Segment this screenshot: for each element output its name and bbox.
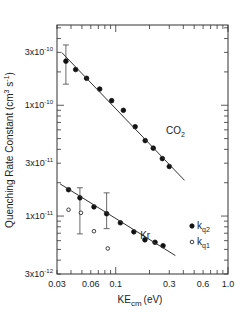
x-tick-label: 0.03 — [48, 279, 66, 289]
fit-line — [62, 52, 185, 180]
data-point-filled — [73, 67, 78, 72]
y-tick-label: 3x10-10 — [25, 46, 54, 57]
legend-marker — [190, 240, 194, 244]
y-tick-label: 1x10-10 — [25, 99, 54, 110]
x-tick-label: 0.06 — [82, 279, 100, 289]
y-tick-label: 1x10-11 — [25, 210, 53, 221]
data-point-filled — [64, 59, 69, 64]
data-point-open — [79, 211, 83, 215]
x-axis-ticks: 0.030.060.10.30.61.0 — [48, 25, 234, 289]
data-point-open — [67, 208, 71, 212]
x-tick-label: 0.1 — [109, 279, 122, 289]
quenching-rate-chart: 0.030.060.10.30.61.0 3x10-101x10-103x10-… — [0, 0, 240, 326]
x-tick-label: 0.3 — [163, 279, 176, 289]
data-point-open — [106, 247, 110, 251]
legend-label: kq2 — [197, 220, 210, 234]
series-label: CO2 — [166, 125, 185, 138]
legend-marker — [190, 224, 194, 228]
legend-label: kq1 — [197, 236, 210, 250]
y-tick-label: 3x10-12 — [25, 268, 54, 279]
y-axis-title: Quenching Rate Constant (cm3 s-1) — [3, 72, 15, 228]
x-axis-title: KEcm(eV) — [118, 294, 163, 308]
legend: kq2kq1 — [190, 220, 210, 250]
data-series — [60, 45, 184, 256]
y-tick-label: 3x10-11 — [25, 157, 53, 168]
data-point-filled — [121, 108, 126, 113]
x-tick-label: 1.0 — [222, 279, 235, 289]
fit-line — [60, 184, 175, 256]
data-point-open — [92, 229, 96, 233]
series-label: Kr — [140, 230, 151, 241]
x-tick-label: 0.6 — [197, 279, 210, 289]
